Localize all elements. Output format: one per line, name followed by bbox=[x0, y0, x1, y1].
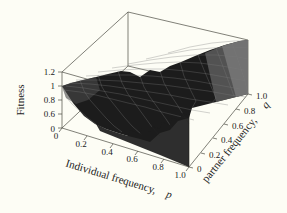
z-axis-label: Fitness bbox=[14, 84, 26, 115]
x-tick-label-3: 0.4 bbox=[101, 147, 113, 157]
surface-plot-figure: 1.2 1 0.8 0.6 0 Fitness 0 0.2 0.4 0.6 0.… bbox=[0, 0, 287, 213]
x-tick-label-2: 0.2 bbox=[75, 139, 86, 149]
x-tick-label-5: 0.8 bbox=[152, 162, 164, 172]
x-axis-label-variable: p bbox=[164, 187, 174, 201]
z-axis-ticks bbox=[58, 72, 62, 128]
z-tick-label-2: 1 bbox=[51, 81, 56, 91]
x-tick-label-1: 0 bbox=[54, 131, 59, 141]
fitness-surface bbox=[62, 40, 248, 167]
z-axis: 1.2 1 0.8 0.6 0 Fitness bbox=[14, 67, 62, 134]
z-tick-label-3: 0.8 bbox=[44, 95, 56, 105]
x-tick-label-6: 1.0 bbox=[174, 170, 186, 180]
z-tick-label-1: 1.2 bbox=[44, 67, 55, 77]
z-tick-label-4: 0.6 bbox=[44, 109, 56, 119]
x-axis-label: Individual frequency, bbox=[64, 157, 158, 196]
y-tick-label-5: 0.8 bbox=[244, 106, 256, 116]
x-tick-label-4: 0.6 bbox=[126, 154, 138, 164]
y-tick-label-1: 0 bbox=[197, 164, 202, 174]
